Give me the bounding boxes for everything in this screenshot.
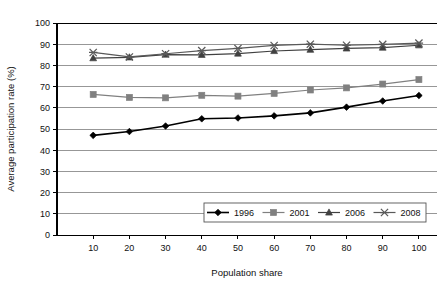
x-tick-label: 50 — [233, 243, 243, 253]
y-tick-label: 90 — [40, 40, 50, 50]
x-tick-label: 20 — [124, 243, 134, 253]
y-axis-title: Average participation rate (%) — [5, 66, 16, 192]
chart-container: 0102030405060708090100102030405060708090… — [0, 0, 444, 282]
y-tick-label: 100 — [35, 18, 50, 28]
marker-square — [271, 90, 277, 96]
marker-square — [416, 77, 422, 83]
x-axis-title: Population share — [211, 267, 282, 278]
x-tick-label: 90 — [378, 243, 388, 253]
legend-label-2006: 2006 — [345, 208, 365, 218]
legend-label-2008: 2008 — [401, 208, 421, 218]
y-tick-label: 80 — [40, 61, 50, 71]
marker-square — [163, 95, 169, 101]
marker-square — [235, 93, 241, 99]
y-tick-label: 70 — [40, 82, 50, 92]
line-chart: 0102030405060708090100102030405060708090… — [0, 0, 444, 282]
x-tick-label: 30 — [161, 243, 171, 253]
marker-square — [90, 91, 96, 97]
y-tick-label: 10 — [40, 209, 50, 219]
marker-square — [307, 87, 313, 93]
legend-label-1996: 1996 — [234, 208, 254, 218]
y-tick-label: 20 — [40, 188, 50, 198]
marker-square — [126, 94, 132, 100]
marker-square — [271, 210, 277, 216]
x-tick-label: 100 — [411, 243, 426, 253]
marker-square — [344, 85, 350, 91]
y-tick-label: 40 — [40, 146, 50, 156]
chart-legend: 1996200120062008 — [204, 203, 426, 222]
marker-square — [380, 81, 386, 87]
legend-label-2001: 2001 — [290, 208, 310, 218]
y-tick-label: 50 — [40, 124, 50, 134]
x-tick-label: 80 — [342, 243, 352, 253]
x-tick-label: 60 — [269, 243, 279, 253]
marker-square — [199, 92, 205, 98]
y-tick-label: 30 — [40, 167, 50, 177]
x-tick-label: 40 — [197, 243, 207, 253]
x-tick-label: 70 — [305, 243, 315, 253]
y-tick-label: 60 — [40, 103, 50, 113]
x-tick-label: 10 — [88, 243, 98, 253]
y-tick-label: 0 — [45, 230, 50, 240]
